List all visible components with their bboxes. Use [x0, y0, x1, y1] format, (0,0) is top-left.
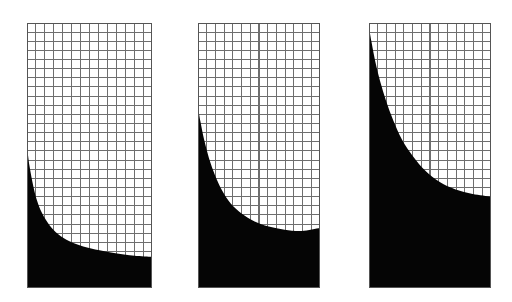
figure-root [0, 0, 512, 302]
panel-2 [198, 23, 320, 288]
panel-1 [27, 23, 152, 288]
panels-group [27, 23, 491, 288]
panel-3 [369, 23, 491, 288]
three-panel-decay-figure [0, 0, 512, 302]
